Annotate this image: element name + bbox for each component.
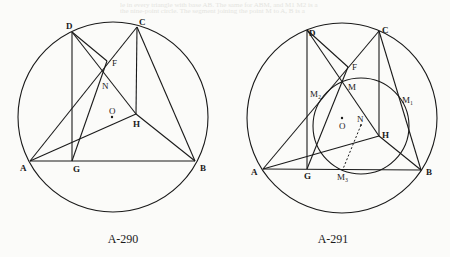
segment-ah	[30, 114, 136, 161]
point-label-M₂: M₂	[310, 89, 321, 99]
point-label-D: D	[309, 28, 316, 38]
geometry-figures: DCFNOHAGBA-290DCFMM₂M₁ONHAGM₃BA-291	[0, 0, 450, 257]
point-label-B: B	[200, 163, 206, 173]
segment-df	[72, 32, 107, 61]
center-dot-o	[111, 116, 113, 118]
point-label-F: F	[112, 58, 117, 68]
figure-caption: A-290	[108, 232, 139, 246]
figure-a-291: DCFMM₂M₁ONHAGM₃BA-291	[247, 23, 437, 246]
segment-ch	[136, 27, 137, 114]
center-dot-n	[360, 124, 362, 126]
point-label-A: A	[251, 167, 258, 177]
point-label-O: O	[109, 106, 116, 116]
point-label-O: O	[339, 121, 346, 131]
point-label-D: D	[66, 21, 73, 31]
segment-hb	[379, 136, 421, 170]
point-label-A: A	[20, 163, 27, 173]
center-dot-o	[341, 117, 343, 119]
segment-ab	[263, 169, 421, 170]
segment-cb	[137, 27, 195, 161]
point-label-G: G	[304, 171, 311, 181]
point-label-C: C	[139, 17, 146, 27]
point-label-G: G	[73, 164, 80, 174]
point-label-H: H	[133, 119, 140, 129]
point-label-H: H	[382, 130, 389, 140]
point-label-F: F	[352, 62, 357, 72]
figure-a-290: DCFNOHAGBA-290	[18, 17, 208, 246]
segment-cb	[379, 31, 421, 170]
point-label-C: C	[382, 25, 389, 35]
point-label-M₃: M₃	[337, 172, 348, 182]
segment-ac	[263, 31, 379, 169]
point-label-M: M	[348, 82, 356, 92]
segment-dh	[72, 32, 136, 114]
segment-gf	[72, 61, 107, 161]
figure-caption: A-291	[318, 232, 349, 246]
point-label-B: B	[426, 167, 432, 177]
point-label-N: N	[357, 114, 364, 124]
point-label-M₁: M₁	[402, 95, 413, 105]
dashed-segment-nm3	[343, 125, 361, 169]
segment-hb	[136, 114, 195, 161]
segment-ah	[263, 136, 379, 169]
point-label-N: N	[102, 81, 109, 91]
